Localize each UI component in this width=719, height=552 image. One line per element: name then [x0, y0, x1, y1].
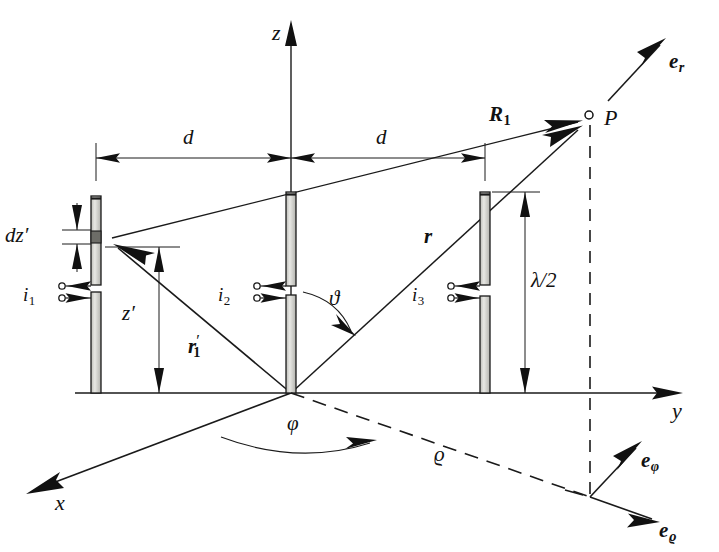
angle-label-theta: ϑ: [329, 288, 339, 309]
axis-label-y: y: [672, 400, 682, 422]
dz-prime-mark: ′: [24, 223, 29, 247]
antenna-array-diagram: z y x d d dz′ z′ λ/2 R1 r r′1 er eφ eϱ ϑ…: [0, 0, 719, 552]
axis-x: [26, 393, 291, 494]
feed-terminals-i3: [448, 281, 480, 302]
vector-r1-prime: [113, 244, 291, 393]
r-main: r: [424, 224, 432, 248]
diagram-canvas: [0, 0, 719, 552]
unit-vector-e-rho: [590, 497, 660, 528]
unit-vector-label-e-r: er: [669, 51, 684, 74]
z-prime-z: z: [122, 301, 130, 325]
erho-main: e: [659, 518, 668, 542]
dz-prime-z: z: [16, 223, 24, 247]
dimension-label-d-left: d: [183, 127, 194, 148]
feed-terminals-i1: [59, 281, 91, 302]
angle-label-phi: φ: [287, 413, 299, 434]
er-main: e: [669, 49, 678, 73]
z-prime-mark: ′: [130, 301, 135, 325]
vector-r: [291, 126, 583, 394]
dimension-label-half-wavelength: λ/2: [531, 270, 556, 291]
feed-terminals-i2: [254, 281, 286, 302]
vector-label-r: r: [424, 226, 432, 247]
i1-sub: 1: [28, 293, 35, 308]
i3-sub: 3: [417, 293, 424, 308]
dipole-1: [91, 196, 101, 393]
axis-y: [75, 387, 683, 400]
unit-vector-label-e-phi: eφ: [641, 450, 659, 473]
dimension-label-dz-prime: dz′: [5, 225, 28, 246]
axis-label-x: x: [55, 492, 65, 514]
dipole-3: [480, 192, 490, 393]
angle-phi-arc: [221, 437, 377, 453]
dz-prime-d: d: [5, 223, 16, 247]
point-P: [585, 111, 593, 119]
ephi-sub: φ: [650, 458, 659, 474]
current-label-i3: i3: [412, 285, 424, 308]
ephi-main: e: [641, 448, 650, 472]
erho-sub: ϱ: [668, 528, 676, 544]
current-label-i1: i1: [23, 285, 35, 308]
R1-main: R: [489, 102, 503, 126]
r1p-sub: 1: [193, 344, 201, 360]
dimension-label-z-prime: z′: [122, 303, 135, 324]
dimension-half-wavelength: [492, 192, 540, 393]
unit-vector-label-e-rho: eϱ: [659, 520, 677, 543]
projection-label-rho: ϱ: [434, 444, 445, 465]
R1-sub: 1: [503, 112, 511, 128]
vector-label-R1: R1: [489, 104, 511, 127]
er-sub: r: [678, 59, 684, 75]
unit-vector-e-phi: [590, 441, 642, 497]
vector-label-r1-prime: r′1: [188, 333, 200, 359]
unit-vector-e-r: [608, 38, 666, 101]
dimension-dz-prime: [62, 203, 93, 272]
current-label-i2: i2: [218, 285, 230, 308]
dimension-label-d-right: d: [376, 127, 387, 148]
point-label-P: P: [604, 107, 617, 129]
i2-sub: 2: [223, 293, 230, 308]
axis-label-z: z: [272, 22, 281, 44]
